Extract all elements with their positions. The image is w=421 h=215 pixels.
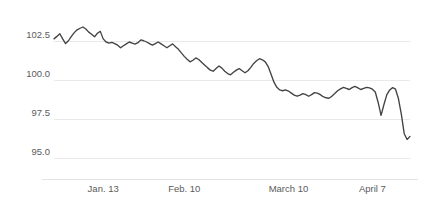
x-axis-tick-label: Jan. 13 (88, 183, 119, 194)
x-axis-tick-label: March 10 (269, 183, 309, 194)
chart-container: 102.5100.097.595.0 Jan. 13Feb. 10March 1… (0, 0, 421, 215)
y-axis-tick-label: 97.5 (32, 107, 51, 118)
x-axis-tick-label: Feb. 10 (168, 183, 200, 194)
y-axis-tick-label: 102.5 (26, 29, 50, 40)
y-axis-labels-group: 102.5100.097.595.0 (26, 29, 50, 157)
x-axis-labels-group: Jan. 13Feb. 10March 10April 7 (88, 183, 386, 194)
x-axis-tick-label: April 7 (359, 183, 386, 194)
y-axis-tick-label: 100.0 (26, 68, 50, 79)
series-line-value (54, 27, 410, 140)
y-axis-tick-label: 95.0 (32, 146, 51, 157)
data-series-group (54, 27, 410, 140)
gridlines-group (42, 42, 418, 180)
line-chart: 102.5100.097.595.0 Jan. 13Feb. 10March 1… (0, 0, 421, 215)
